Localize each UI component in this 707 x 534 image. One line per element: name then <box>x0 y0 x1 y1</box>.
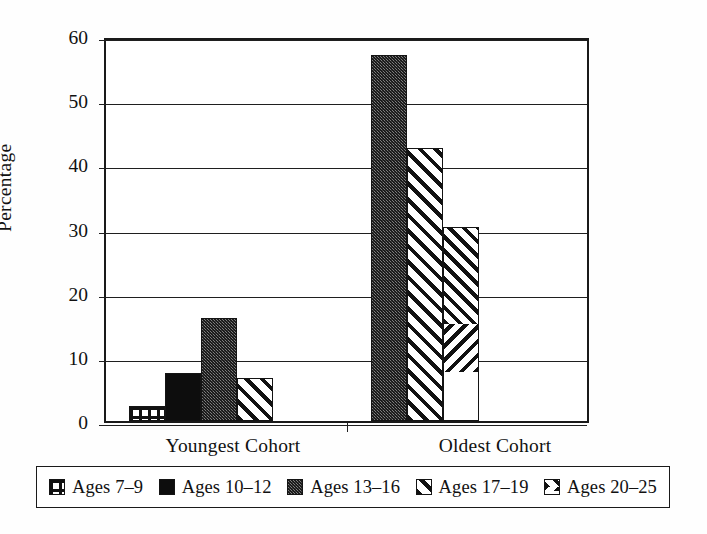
legend-entry: Ages 20–25 <box>544 477 657 498</box>
bar <box>129 406 165 421</box>
x-tick-label: Oldest Cohort <box>439 435 552 457</box>
y-tick-label: 0 <box>78 412 88 434</box>
bar <box>165 373 201 421</box>
bar <box>371 55 407 421</box>
legend-label: Ages 10–12 <box>182 477 272 498</box>
gridline <box>106 168 587 169</box>
y-tick-mark <box>99 104 106 105</box>
bar-chart: Percentage 0102030405060 Youngest Cohort… <box>0 0 707 534</box>
y-tick-label: 40 <box>69 155 89 177</box>
y-tick-label: 60 <box>69 27 89 49</box>
legend-label: Ages 13–16 <box>310 477 400 498</box>
y-tick-mark <box>99 233 106 234</box>
gridline <box>106 233 587 234</box>
gridline <box>106 297 587 298</box>
gridline <box>106 361 587 362</box>
bar <box>237 378 273 421</box>
bar <box>443 227 479 421</box>
y-tick-label: 50 <box>69 91 89 113</box>
y-tick-mark <box>99 361 106 362</box>
legend-swatch-chevron-icon <box>544 479 560 495</box>
plot-area <box>104 38 589 423</box>
y-tick-mark <box>99 168 106 169</box>
legend-swatch-diagonal-icon <box>416 479 432 495</box>
bar <box>407 148 443 421</box>
x-tick-label: Youngest Cohort <box>166 435 301 457</box>
legend-swatch-lattice-icon <box>49 479 65 495</box>
chart-legend: Ages 7–9Ages 10–12Ages 13–16Ages 17–19Ag… <box>36 466 670 508</box>
legend-swatch-solid-icon <box>159 479 175 495</box>
y-tick-label: 20 <box>69 284 89 306</box>
y-tick-label: 10 <box>69 348 89 370</box>
y-tick-mark <box>99 425 106 426</box>
legend-label: Ages 17–19 <box>439 477 529 498</box>
gridline <box>106 104 587 105</box>
legend-entry: Ages 13–16 <box>287 477 400 498</box>
legend-swatch-stipple-icon <box>287 479 303 495</box>
y-tick-mark <box>99 40 106 41</box>
bar <box>201 318 237 421</box>
legend-entry: Ages 7–9 <box>49 477 143 498</box>
legend-label: Ages 20–25 <box>567 477 657 498</box>
x-tick-mark <box>347 423 348 432</box>
legend-entry: Ages 10–12 <box>159 477 272 498</box>
legend-label: Ages 7–9 <box>72 477 143 498</box>
y-tick-label: 30 <box>69 220 89 242</box>
gridline <box>106 40 587 41</box>
y-tick-mark <box>99 297 106 298</box>
y-axis-tick-labels: 0102030405060 <box>0 0 96 534</box>
legend-entry: Ages 17–19 <box>416 477 529 498</box>
